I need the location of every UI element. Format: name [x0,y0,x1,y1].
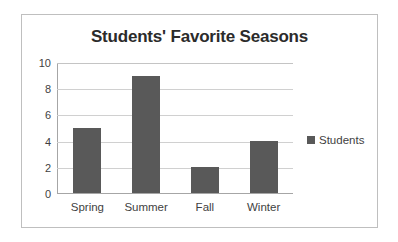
bar-slot [176,63,235,193]
chart-frame: Students' Favorite Seasons 0246810 Sprin… [21,14,378,228]
bar-slot [117,63,176,193]
y-axis-tick-label: 6 [45,109,51,121]
bar-summer[interactable] [132,76,160,193]
y-axis-tick-label: 10 [39,57,51,69]
x-axis-label-summer: Summer [117,201,176,213]
legend-label-students: Students [319,134,364,146]
x-axis-label-winter: Winter [234,201,293,213]
chart-title: Students' Favorite Seasons [22,27,377,47]
bar-slot [234,63,293,193]
bar-winter[interactable] [250,141,278,193]
plot-area-wrapper: 0246810 SpringSummerFallWinter [57,63,293,194]
bar-spring[interactable] [73,128,101,193]
y-axis-tick-label: 0 [45,188,51,200]
chart-legend: Students [307,134,364,146]
bar-series-students [58,63,293,193]
y-axis-tick-label: 4 [45,136,51,148]
legend-swatch-icon [307,136,315,144]
y-axis-tick-label: 8 [45,83,51,95]
bar-slot [58,63,117,193]
y-axis-tick-label: 2 [45,162,51,174]
x-axis-label-spring: Spring [58,201,117,213]
bar-fall[interactable] [191,167,219,193]
x-axis-label-fall: Fall [176,201,235,213]
x-axis-labels: SpringSummerFallWinter [58,201,293,213]
